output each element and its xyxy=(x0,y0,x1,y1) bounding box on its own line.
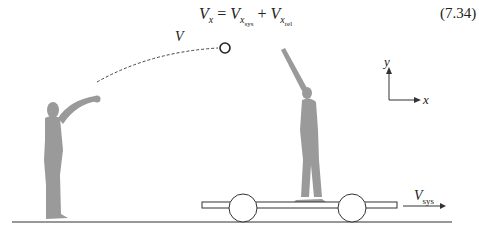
catcher-figure xyxy=(281,48,326,202)
ball-trajectory xyxy=(97,48,218,82)
vsys-v: V xyxy=(414,188,423,203)
vsys-sub: sys xyxy=(423,196,435,206)
ball-velocity-label: V xyxy=(175,29,184,45)
ball xyxy=(220,43,230,53)
diagram-canvas xyxy=(0,0,479,228)
cart-velocity-label: Vsys xyxy=(414,188,434,206)
thrower-figure xyxy=(44,96,101,220)
x-axis-label: x xyxy=(423,92,429,108)
cart-wheel-right xyxy=(338,194,366,222)
x-axis-arrow-icon xyxy=(414,97,421,103)
cart-wheel-left xyxy=(229,194,257,222)
y-axis-label: y xyxy=(384,54,390,70)
vsys-arrow-head-icon xyxy=(440,203,446,209)
